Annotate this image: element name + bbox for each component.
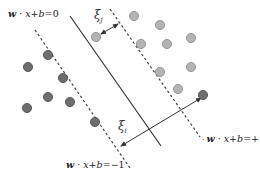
hyperplane-label: w · x+b=0 [8, 8, 59, 19]
data-point-positive [162, 39, 171, 48]
data-point-positive [155, 67, 164, 76]
data-point-negative [65, 97, 74, 106]
data-point-positive [155, 20, 164, 29]
data-point-negative [43, 50, 52, 59]
slack-label-j: ξj [94, 8, 103, 24]
data-point-positive [136, 39, 145, 48]
data-point-positive [91, 32, 100, 41]
data-point-positive [186, 62, 195, 71]
hyperplane-line [70, 16, 161, 146]
margin-negative-label: w · x+b=−1 [66, 159, 125, 170]
data-point-negative [23, 62, 32, 71]
svm-diagram [0, 0, 260, 179]
data-point-negative [90, 117, 99, 126]
data-point-positive [173, 84, 182, 93]
data-point-negative [22, 103, 31, 112]
data-point-positive [186, 33, 195, 42]
margin-positive-label: · w · x+b=+1 [202, 133, 260, 144]
slack-arrow-j [101, 24, 118, 34]
data-point-positive [129, 11, 138, 20]
class-positive-points [91, 11, 195, 93]
data-point-negative [43, 92, 52, 101]
slack-label-i: ξi [118, 119, 127, 135]
data-point-negative [198, 90, 207, 99]
margin-line-positive [110, 9, 200, 137]
data-point-negative [58, 73, 67, 82]
